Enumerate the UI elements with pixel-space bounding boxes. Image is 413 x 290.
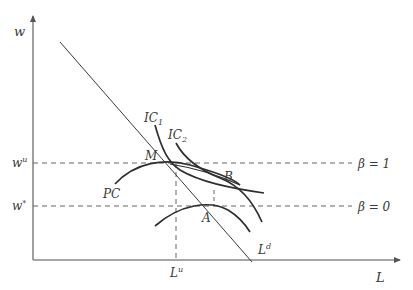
wu-label: wu: [12, 155, 27, 170]
ld-label: Ld: [257, 242, 271, 257]
labor-market-diagram: w L wu w* β = 1 β = 0 Lu Ld IC1 IC2 PC M…: [0, 0, 413, 290]
point-a-label: A: [201, 211, 211, 225]
y-axis-label: w: [14, 24, 25, 39]
pc-label: PC: [102, 187, 120, 201]
beta-0-label: β = 0: [357, 200, 391, 214]
ic2-curve: [176, 143, 262, 222]
lu-label: Lu: [169, 265, 183, 280]
ic2-label: IC2: [167, 128, 187, 144]
ic1-label: IC1: [143, 111, 163, 127]
beta-1-label: β = 1: [357, 157, 390, 171]
point-b-label: B: [223, 170, 233, 184]
point-m-label: M: [144, 149, 158, 163]
wstar-label: w*: [12, 199, 26, 213]
x-axis-label: L: [375, 270, 385, 285]
